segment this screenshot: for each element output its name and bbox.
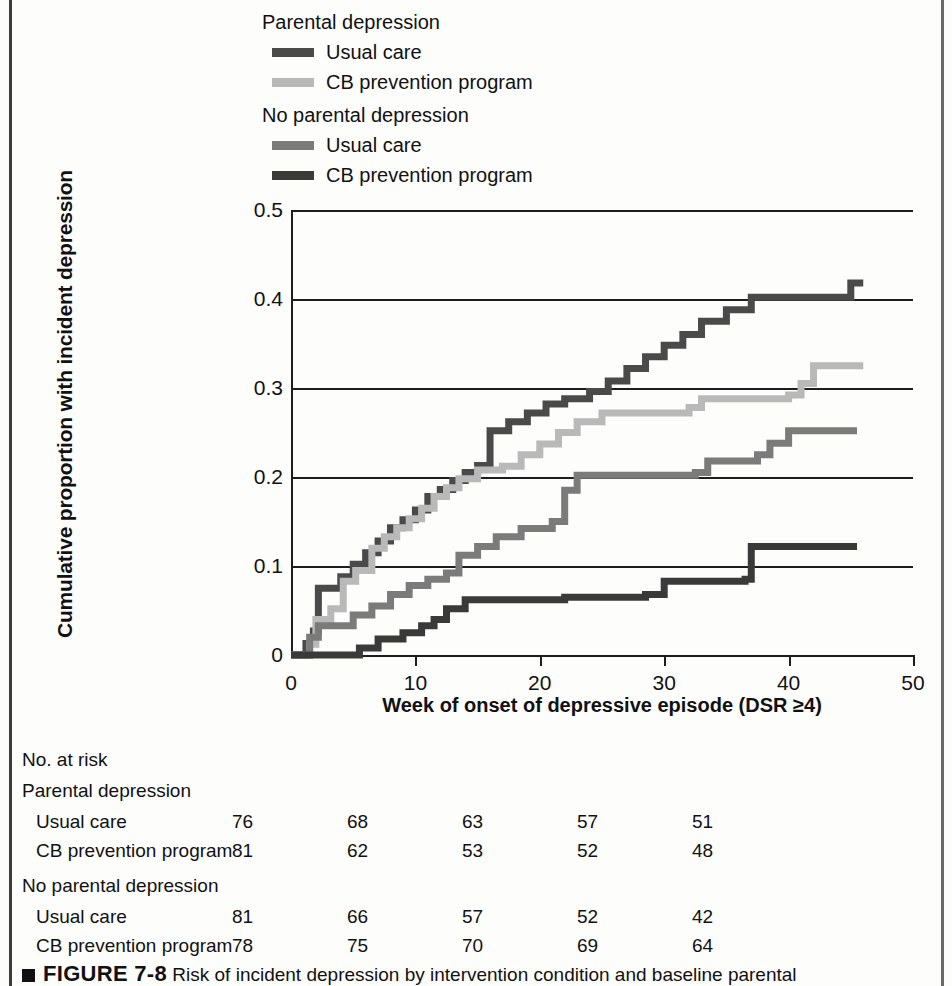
at-risk-row-label: CB prevention program [22, 934, 232, 963]
at-risk-value: 69 [577, 934, 692, 963]
y-axis-tick-label: 0.1 [231, 555, 283, 576]
legend-item-no-parental-cb-program: CB prevention program [272, 160, 682, 190]
y-axis-tick-label: 0.2 [231, 466, 283, 487]
at-risk-value: 70 [462, 934, 577, 963]
legend-item-parental-cb-program: CB prevention program [272, 67, 682, 97]
at-risk-value: 51 [692, 810, 807, 839]
table-row: Usual care 81 66 57 52 42 [22, 905, 932, 934]
at-risk-value: 81 [232, 905, 347, 934]
legend-group-title-parental: Parental depression [262, 8, 682, 37]
at-risk-value: 64 [692, 934, 807, 963]
survival-curves [291, 210, 913, 657]
at-risk-value: 48 [692, 839, 807, 868]
at-risk-title: No. at risk [22, 748, 932, 779]
y-axis-tick-label: 0 [231, 644, 283, 665]
legend-swatch-icon [272, 48, 314, 57]
at-risk-value: 68 [347, 810, 462, 839]
x-axis-tick-label: 20 [510, 672, 570, 693]
at-risk-value: 63 [462, 810, 577, 839]
legend-item-label: Usual care [326, 41, 422, 63]
at-risk-value: 52 [577, 839, 692, 868]
plot-area [291, 210, 913, 655]
figure-caption: FIGURE 7-8 Risk of incident depression b… [22, 962, 932, 986]
chart-legend: Parental depression Usual care CB preven… [262, 8, 682, 190]
y-axis-title: Cumulative proportion with incident depr… [53, 178, 77, 638]
at-risk-group-no-parental: No parental depression [22, 874, 932, 905]
x-axis-title: Week of onset of depressive episode (DSR… [291, 694, 913, 717]
legend-item-parental-usual-care: Usual care [272, 37, 682, 67]
legend-swatch-icon [272, 171, 314, 180]
legend-item-label: Usual care [326, 134, 422, 156]
at-risk-value: 75 [347, 934, 462, 963]
at-risk-value: 66 [347, 905, 462, 934]
y-axis-tick-label: 0.3 [231, 377, 283, 398]
at-risk-value: 76 [232, 810, 347, 839]
table-row: CB prevention program 81 62 53 52 48 [22, 839, 932, 868]
y-axis-tick-labels: 00.10.20.30.40.5 [225, 210, 283, 660]
figure-page: Parental depression Usual care CB preven… [0, 0, 952, 986]
x-axis-tick-label: 10 [385, 672, 445, 693]
x-axis-tick-label: 50 [883, 672, 943, 693]
square-bullet-icon [22, 969, 35, 982]
at-risk-value: 57 [577, 810, 692, 839]
curve-no-parental-depression-cb-prevention-program [291, 546, 857, 655]
table-row: CB prevention program 78 75 70 69 64 [22, 934, 932, 963]
y-axis-tick-label: 0.5 [231, 199, 283, 220]
y-axis-tick-label: 0.4 [231, 288, 283, 309]
at-risk-row-label: Usual care [22, 905, 232, 934]
legend-item-label: CB prevention program [326, 164, 533, 186]
at-risk-value: 81 [232, 839, 347, 868]
at-risk-value: 62 [347, 839, 462, 868]
at-risk-row-label: Usual care [22, 810, 232, 839]
x-axis-tick-label: 40 [759, 672, 819, 693]
at-risk-value: 57 [462, 905, 577, 934]
at-risk-value: 53 [462, 839, 577, 868]
at-risk-value: 42 [692, 905, 807, 934]
legend-swatch-icon [272, 141, 314, 150]
number-at-risk-table: No. at risk Parental depression Usual ca… [22, 748, 932, 963]
x-axis-tick [913, 655, 915, 666]
table-row: Usual care 76 68 63 57 51 [22, 810, 932, 839]
figure-number: FIGURE 7-8 [43, 962, 167, 986]
legend-item-label: CB prevention program [326, 71, 533, 93]
x-axis-tick-label: 30 [634, 672, 694, 693]
chart: Cumulative proportion with incident depr… [0, 196, 952, 741]
figure-caption-text: Risk of incident depression by intervent… [172, 964, 796, 985]
legend-item-no-parental-usual-care: Usual care [272, 130, 682, 160]
at-risk-group-parental: Parental depression [22, 779, 932, 810]
legend-group-title-no-parental: No parental depression [262, 101, 682, 130]
curve-parental-depression-cb-prevention-program [291, 366, 863, 655]
x-axis-tick-label: 0 [261, 672, 321, 693]
at-risk-row-label: CB prevention program [22, 839, 232, 868]
at-risk-value: 52 [577, 905, 692, 934]
legend-swatch-icon [272, 78, 314, 87]
at-risk-value: 78 [232, 934, 347, 963]
